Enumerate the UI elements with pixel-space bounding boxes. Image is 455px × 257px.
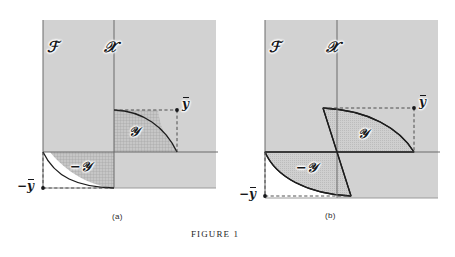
panel-a-point-label-ybar: y xyxy=(182,98,189,110)
panel-b-ybar-glyph: y xyxy=(419,96,426,108)
panel-a-neg-sign: − xyxy=(17,179,27,193)
panel-b-point-label-ybar: y xyxy=(419,96,426,108)
panel-b-point-label-neg-ybar: −y xyxy=(239,188,256,200)
panel-b-label-x-space: 𝒳 xyxy=(326,40,339,55)
figure-number-label: FIGURE 1 xyxy=(191,229,239,239)
panel-a-neg-ybar-glyph: y xyxy=(27,180,34,192)
panel-b xyxy=(263,20,440,198)
panel-b-label-z-space: ℱ xyxy=(269,40,281,55)
panel-b-neg-ybar-glyph: y xyxy=(249,188,256,200)
panel-a xyxy=(41,20,218,190)
panel-b-label-set-y: 𝒴 xyxy=(358,127,368,140)
panel-b-label-set-neg-y: −𝒴 xyxy=(296,161,317,174)
figure-1-container: ℱ 𝒳 𝒴 −𝒴 y −y ℱ 𝒳 𝒴 −𝒴 y −y (a) (b) FIGU… xyxy=(0,0,455,257)
panel-a-point-label-neg-ybar: −y xyxy=(17,180,34,192)
panel-b-point-ybar xyxy=(412,106,416,110)
panel-b-point-negybar xyxy=(263,194,267,198)
panel-a-label-z-space: ℱ xyxy=(47,40,59,55)
panel-a-caption: (a) xyxy=(112,212,123,221)
panel-a-point-negybar xyxy=(41,186,45,190)
panel-a-point-ybar xyxy=(175,108,179,112)
panel-a-label-x-space: 𝒳 xyxy=(104,40,117,55)
panel-a-label-set-y: 𝒴 xyxy=(129,125,139,138)
figure-canvas xyxy=(0,0,455,257)
panel-b-neg-sign: − xyxy=(239,187,249,201)
panel-b-caption: (b) xyxy=(325,211,336,220)
panel-a-ybar-glyph: y xyxy=(182,98,189,110)
panel-a-label-set-neg-y: −𝒴 xyxy=(70,160,91,173)
